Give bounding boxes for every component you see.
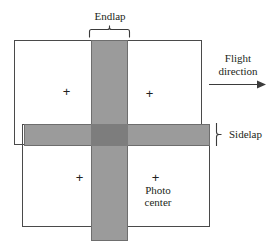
- photo-center-line1: Photo: [145, 184, 171, 196]
- flight-direction-label: Flight direction: [209, 52, 267, 78]
- photo-center-mark-bottom-left: +: [74, 172, 85, 183]
- endlap-sidelap-diagram: + + + + Endlap Sidelap Flight direction …: [0, 0, 269, 243]
- endlap-brace-icon: [88, 25, 132, 38]
- flight-direction-line1: Flight: [225, 52, 251, 64]
- photo-center-mark-bottom-right: +: [150, 172, 161, 183]
- sidelap-brace-icon: [215, 122, 226, 148]
- photo-center-mark-top-left: +: [61, 86, 72, 97]
- sidelap-label: Sidelap: [229, 128, 262, 140]
- photo-center-line2: center: [145, 196, 172, 208]
- photo-center-label: Photo center: [132, 184, 184, 208]
- endlap-label: Endlap: [86, 10, 134, 22]
- flight-direction-arrow-icon: [209, 79, 266, 90]
- photo-center-mark-top-right: +: [144, 88, 155, 99]
- flight-direction-line2: direction: [218, 65, 257, 77]
- endlap-sidelap-intersection: [91, 124, 128, 146]
